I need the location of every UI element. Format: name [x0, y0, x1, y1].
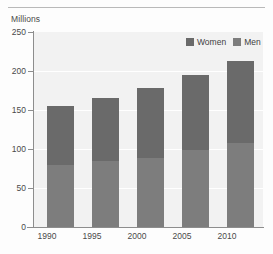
top-divider [8, 7, 265, 8]
plot-inner [34, 32, 263, 227]
legend-item-men[interactable]: Men [233, 37, 261, 47]
bar-segment-men-1990 [47, 165, 74, 227]
x-tick-label-2005: 2005 [160, 231, 204, 241]
y-tick-label-200: 200 [2, 66, 26, 76]
bar-segment-women-2000 [137, 88, 164, 157]
y-tick-label-0: 0 [2, 222, 26, 232]
chart-page: Millions 250 200 150 100 50 0 [0, 0, 273, 254]
plot-area [34, 32, 263, 227]
chart-legend: Women Men [186, 37, 261, 47]
y-tick-label-50: 50 [2, 183, 26, 193]
x-tick-label-1995: 1995 [70, 231, 114, 241]
x-tick-label-2000: 2000 [115, 231, 159, 241]
y-axis-line [33, 31, 34, 227]
bar-segment-men-1995 [92, 161, 119, 227]
bar-segment-men-2010 [227, 143, 254, 227]
y-tick-label-250: 250 [2, 27, 26, 37]
bar-segment-women-2005 [182, 75, 209, 150]
bar-segment-women-1990 [47, 106, 74, 165]
x-tick-label-1990: 1990 [25, 231, 69, 241]
legend-swatch-women-icon [186, 38, 194, 46]
legend-item-women[interactable]: Women [186, 37, 226, 47]
x-axis-line [27, 227, 264, 228]
legend-swatch-men-icon [233, 38, 241, 46]
y-axis-tick-labels: 250 200 150 100 50 0 [0, 0, 26, 254]
legend-label-women: Women [197, 37, 226, 47]
bar-segment-men-2005 [182, 150, 209, 227]
bar-segment-women-2010 [227, 61, 254, 143]
legend-label-men: Men [244, 37, 261, 47]
y-tick-label-100: 100 [2, 144, 26, 154]
bar-segment-men-2000 [137, 158, 164, 227]
x-tick-label-2010: 2010 [205, 231, 249, 241]
bar-segment-women-1995 [92, 98, 119, 161]
y-tick-label-150: 150 [2, 105, 26, 115]
